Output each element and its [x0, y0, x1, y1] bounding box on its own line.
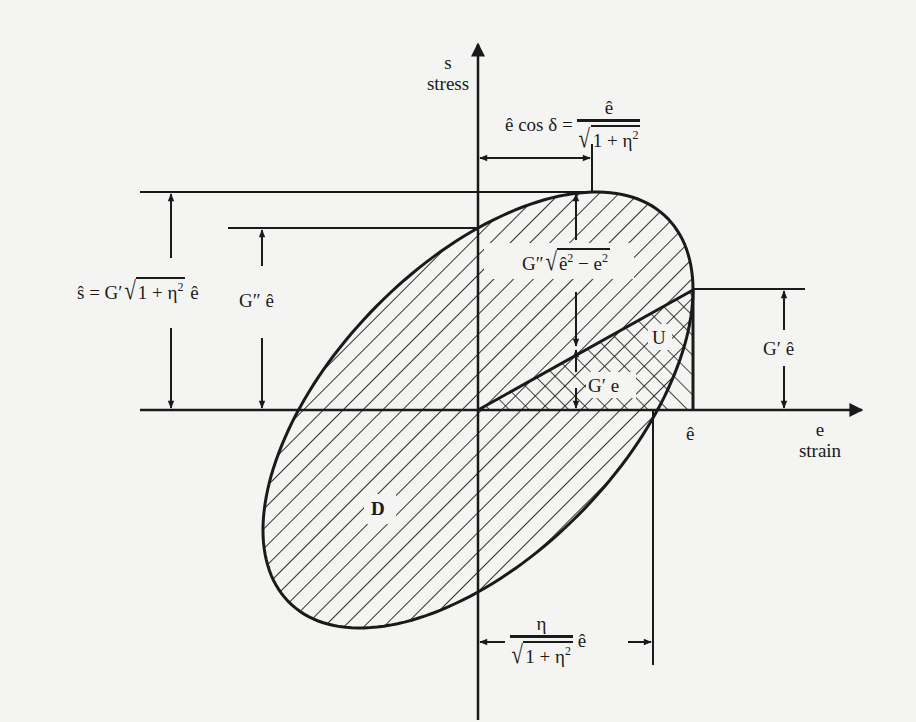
- sqrt-icon: √: [545, 250, 556, 273]
- cos-delta-lhs: ê cos δ =: [505, 114, 573, 135]
- sqrt-icon: √: [124, 279, 135, 302]
- stress-name: stress: [418, 74, 478, 93]
- cos-delta-denominator: √ 1 + η2: [577, 119, 640, 150]
- strain-symbol: e: [780, 420, 860, 439]
- hysteresis-diagram: [0, 0, 916, 722]
- peak-stress-label: ŝ = G′√1 + η2 ê: [74, 276, 202, 303]
- sqrt-icon: √: [579, 127, 590, 150]
- strain-name: strain: [780, 441, 860, 460]
- stress-symbol: s: [418, 53, 478, 72]
- offset-fraction: η √ 1 + η2: [510, 614, 573, 666]
- stress-axis-label: s stress: [418, 53, 478, 93]
- offset-label: η √ 1 + η2 ê: [510, 614, 586, 666]
- elastic-stress-label: G′ e: [588, 376, 619, 395]
- dissipated-energy-label: D: [371, 499, 385, 518]
- offset-numerator: η: [533, 614, 551, 635]
- storage-stress-label: G′ ê: [760, 338, 797, 359]
- peak-strain-label: ê: [686, 424, 694, 443]
- cos-delta-fraction: ê √ 1 + η2: [577, 98, 640, 150]
- sqrt-icon: √: [511, 643, 522, 666]
- loss-component-label: G″√ê2 − e2: [522, 248, 610, 273]
- cos-delta-label: ê cos δ = ê √ 1 + η2: [505, 98, 640, 150]
- strain-axis-label: e strain: [780, 420, 860, 460]
- stored-energy-label: U: [652, 328, 666, 347]
- offset-denominator: √ 1 + η2: [510, 635, 573, 666]
- loss-stress-label: G″ ê: [236, 290, 277, 311]
- cos-delta-numerator: ê: [601, 98, 617, 119]
